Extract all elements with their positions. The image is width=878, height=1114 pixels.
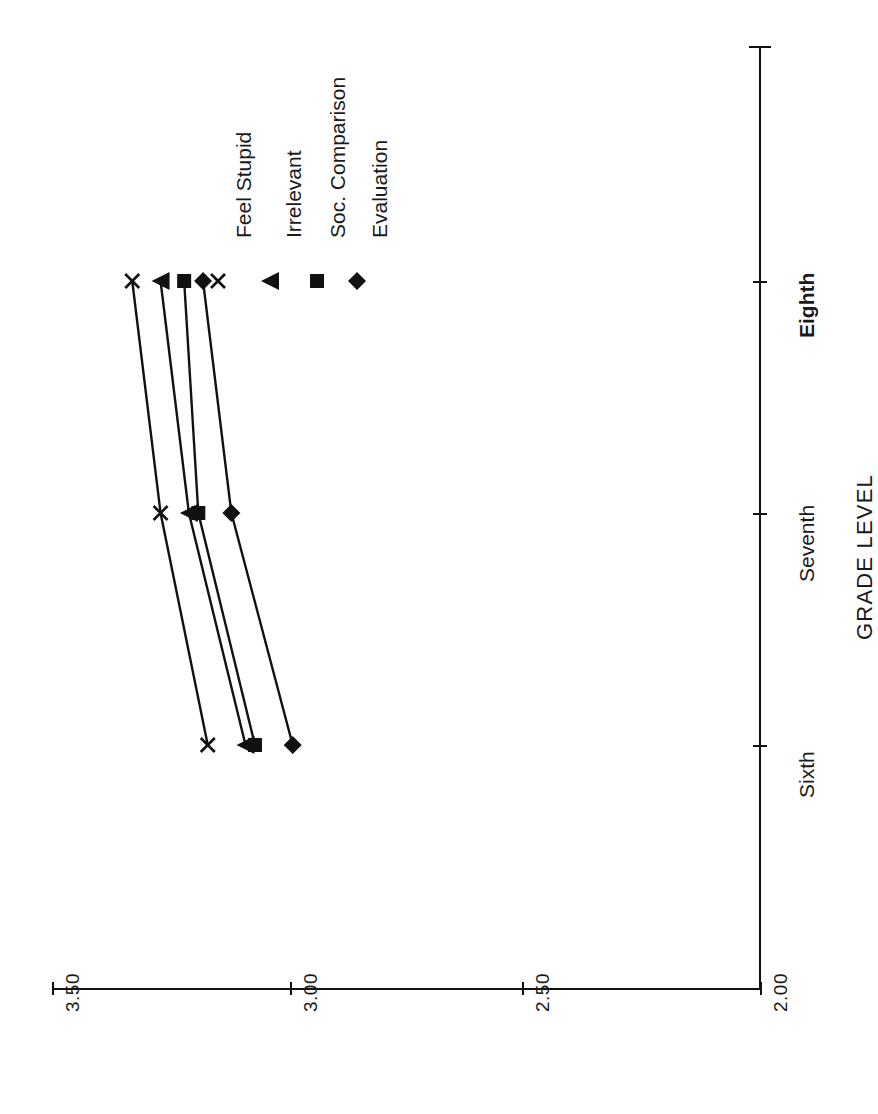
legend-label-evaluation: Evaluation: [368, 140, 392, 238]
category-tick-label-eighth: Eighth: [795, 273, 819, 338]
data-point-x-sixth: [201, 738, 215, 752]
data-point-diamond-eighth: [194, 272, 212, 290]
legend-marker-x: [211, 274, 225, 288]
data-point-square-seventh: [191, 506, 205, 520]
data-point-square-sixth: [248, 738, 262, 752]
legend-label-irrelevant: Irrelevant: [282, 150, 306, 238]
value-tick-label-2-00: 2.00: [770, 973, 792, 1012]
chart-canvas: 3.50 3.00 2.50 2.00 Eighth Seventh Sixth…: [0, 0, 878, 1114]
category-tick-seventh: [753, 513, 767, 515]
legend-marker-diamond: [348, 272, 366, 290]
series-line-irrelevant: [161, 281, 246, 745]
category-axis-top-cap: [749, 46, 771, 48]
series-line-feel-stupid: [132, 281, 208, 745]
category-tick-eighth: [753, 281, 767, 283]
category-tick-label-seventh: Seventh: [795, 505, 819, 582]
data-point-diamond-seventh: [222, 504, 240, 522]
value-tick-3-50: [52, 982, 54, 995]
data-point-diamond-sixth: [284, 736, 302, 754]
value-tick-2-50: [522, 982, 524, 995]
data-point-x-seventh: [154, 506, 168, 520]
legend-marker-triangle: [261, 272, 279, 290]
value-tick-label-3-00: 3.00: [300, 973, 322, 1012]
data-point-x-eighth: [125, 274, 139, 288]
series-plot: [0, 0, 878, 1114]
data-point-triangle-seventh: [180, 504, 198, 522]
category-tick-sixth: [753, 745, 767, 747]
legend-label-feel-stupid: Feel Stupid: [232, 132, 256, 238]
legend-label-soc-comparison: Soc. Comparison: [326, 77, 350, 238]
category-axis-line: [759, 46, 761, 990]
value-axis-line: [52, 988, 760, 990]
data-point-triangle-sixth: [237, 736, 255, 754]
legend-marker-square: [310, 274, 324, 288]
category-tick-label-sixth: Sixth: [795, 751, 819, 798]
category-axis-title: GRADE LEVEL: [852, 474, 878, 640]
series-line-evaluation: [203, 281, 293, 745]
series-line-soc-comparison: [184, 281, 255, 745]
data-point-triangle-eighth: [152, 272, 170, 290]
value-tick-label-2-50: 2.50: [532, 973, 554, 1012]
value-tick-3-00: [290, 982, 292, 995]
value-tick-label-3-50: 3.50: [62, 973, 84, 1012]
data-point-square-eighth: [177, 274, 191, 288]
